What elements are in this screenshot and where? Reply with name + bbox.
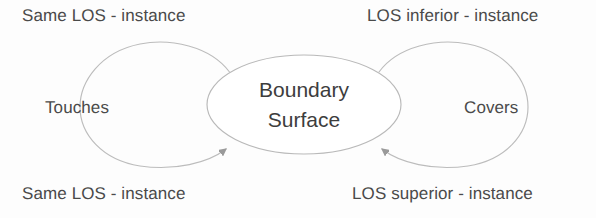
boundary-surface-ellipse	[207, 55, 401, 154]
edge-label-same-los-instance-top: Same LOS - instance	[22, 6, 185, 26]
edge-label-same-los-instance-bottom: Same LOS - instance	[22, 184, 185, 204]
edge-label-covers: Covers	[464, 98, 518, 118]
diagram-canvas: Boundary Surface Same LOS - instance LOS…	[0, 0, 596, 218]
edge-label-los-inferior-instance: LOS inferior - instance	[367, 6, 538, 26]
edge-label-los-superior-instance: LOS superior - instance	[352, 184, 533, 204]
edge-label-touches: Touches	[45, 98, 109, 118]
